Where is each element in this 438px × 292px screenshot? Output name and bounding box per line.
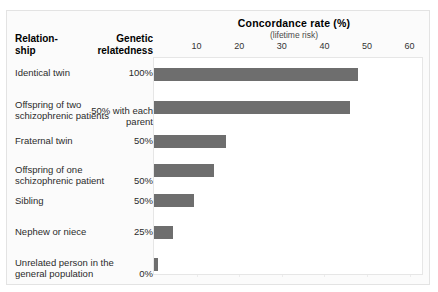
x-tick-label-50: 50 bbox=[362, 41, 372, 51]
row-value-relatedness: 50% bbox=[63, 175, 153, 186]
chart-figure: 102030405060 Relation- ship Genetic rela… bbox=[6, 10, 430, 285]
row-value-relatedness: 50% bbox=[63, 195, 153, 206]
table-row: Unrelated person in the general populati… bbox=[7, 11, 431, 39]
x-tick-label-10: 10 bbox=[192, 41, 202, 51]
column-header-relationship-line2: ship bbox=[15, 45, 36, 56]
bar-concordance-rate bbox=[154, 194, 194, 207]
row-value-relatedness: 50% bbox=[63, 135, 153, 146]
bar-concordance-rate bbox=[154, 226, 173, 239]
bar-concordance-rate bbox=[154, 164, 214, 177]
x-tick-label-30: 30 bbox=[277, 41, 287, 51]
row-value-relatedness: 100% bbox=[63, 67, 153, 78]
x-tick-label-60: 60 bbox=[405, 41, 415, 51]
row-value-relatedness: 25% bbox=[63, 226, 153, 237]
row-value-relatedness: 0% bbox=[63, 268, 153, 279]
column-header-relatedness-line2: relatedness bbox=[97, 45, 153, 56]
row-value-relatedness: 50% with each parent bbox=[63, 105, 153, 127]
bar-concordance-rate bbox=[154, 258, 158, 271]
x-tick-label-20: 20 bbox=[234, 41, 244, 51]
bar-concordance-rate bbox=[154, 101, 350, 114]
x-tick-label-40: 40 bbox=[319, 41, 329, 51]
bar-concordance-rate bbox=[154, 68, 358, 81]
bar-concordance-rate bbox=[154, 135, 226, 148]
